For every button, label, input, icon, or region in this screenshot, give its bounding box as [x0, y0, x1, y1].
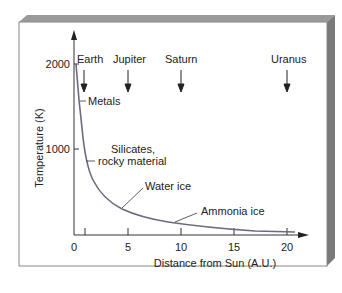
x-tick-label-0: 0 — [71, 241, 77, 253]
x-tick-label-15: 15 — [228, 241, 240, 253]
saturn-label: Saturn — [165, 53, 197, 65]
y-axis-title: Temperature (K) — [33, 108, 45, 187]
water-ice-label: Water ice — [145, 180, 191, 192]
y-tick-label-2000: 2000 — [46, 58, 70, 70]
metals-label: Metals — [88, 95, 121, 107]
y-tick-label-1000: 1000 — [46, 143, 70, 155]
silicates-label-line1: Silicates, — [111, 143, 155, 155]
chart-figure: Earth Jupiter Saturn Uranus Metals Silic… — [0, 0, 342, 293]
x-axis-title: Distance from Sun (A.U.) — [154, 257, 276, 269]
ammonia-ice-label: Ammonia ice — [201, 205, 265, 217]
earth-label: Earth — [77, 53, 103, 65]
x-tick-label-10: 10 — [175, 241, 187, 253]
uranus-label: Uranus — [271, 53, 307, 65]
x-tick-label-20: 20 — [281, 241, 293, 253]
frame-top-bevel — [19, 15, 335, 22]
x-tick-label-5: 5 — [125, 241, 131, 253]
jupiter-label: Jupiter — [113, 53, 146, 65]
silicates-label-line2: rocky material — [98, 155, 166, 167]
frame-right-bevel — [327, 15, 335, 266]
